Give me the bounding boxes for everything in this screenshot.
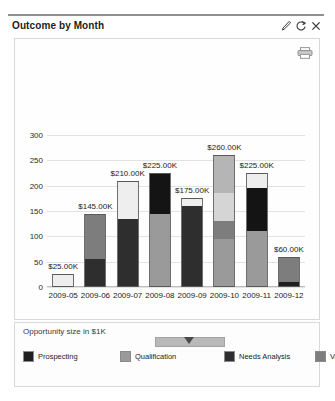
bar-segment[interactable] (246, 173, 268, 188)
print-icon[interactable] (297, 45, 313, 57)
x-axis-tick-label: 2009-05 (48, 291, 77, 300)
legend-caption: Opportunity size in $1K (23, 327, 106, 336)
x-axis-tick-label: 2009-10 (210, 291, 239, 300)
y-axis-tick-label: 0 (39, 283, 43, 292)
x-axis-tick-label: 2009-07 (113, 291, 142, 300)
bar-value-label: $25.00K (48, 262, 78, 271)
bar-segment[interactable] (213, 193, 235, 221)
y-axis-tick-label: 50 (34, 257, 43, 266)
legend-items: ProspectingQualificationNeeds AnalysisVa… (23, 349, 315, 363)
legend-item-label: Qualification (135, 352, 176, 361)
bar-segment[interactable] (149, 214, 171, 287)
bar-segment[interactable] (278, 257, 300, 282)
bar-segment[interactable] (181, 206, 203, 287)
bar-column[interactable] (246, 173, 268, 287)
bar-segment[interactable] (117, 181, 139, 219)
y-axis-tick-label: 100 (30, 232, 43, 241)
legend-item-label: Needs Analysis (239, 352, 290, 361)
chart-canvas: 050100150200250300$25.00K2009-05$145.00K… (14, 38, 320, 320)
bar-segment[interactable] (181, 198, 203, 206)
bar-segment[interactable] (52, 274, 74, 287)
legend-swatch-icon (120, 351, 131, 362)
legend-swatch-icon (224, 351, 235, 362)
bar-value-label: $225.00K (239, 161, 273, 170)
bar-column[interactable] (84, 214, 106, 287)
bar-value-label: $210.00K (110, 169, 144, 178)
bar-column[interactable] (278, 257, 300, 287)
bar-segment[interactable] (246, 188, 268, 231)
x-axis-tick-label: 2009-11 (242, 291, 271, 300)
bar-segment[interactable] (278, 282, 300, 287)
legend-item[interactable]: Qualification (120, 349, 224, 363)
bar-segment[interactable] (84, 214, 106, 260)
grid-line (47, 287, 305, 288)
bar-segment[interactable] (117, 219, 139, 287)
y-axis-tick-label: 150 (30, 207, 43, 216)
y-axis-tick-label: 300 (30, 131, 43, 140)
x-axis-tick-label: 2009-09 (177, 291, 206, 300)
bar-segment[interactable] (149, 173, 171, 214)
legend-item-label: Prospecting (38, 352, 78, 361)
legend-item[interactable]: Prospecting (23, 349, 120, 363)
x-axis-tick-label: 2009-06 (81, 291, 110, 300)
page-title: Outcome by Month (12, 20, 104, 31)
legend-item[interactable]: Value Proposition (315, 349, 335, 363)
slider-thumb-icon[interactable] (184, 337, 194, 344)
legend-scroll-slider[interactable] (155, 337, 225, 347)
y-axis-tick-label: 250 (30, 156, 43, 165)
edit-pencil-icon[interactable] (280, 20, 292, 32)
plot-area: 050100150200250300$25.00K2009-05$145.00K… (47, 135, 305, 287)
legend-item-label: Value Proposition (330, 352, 335, 361)
panel-title-bar: Outcome by Month (8, 14, 324, 38)
bar-column[interactable] (149, 173, 171, 287)
x-axis-tick-label: 2009-08 (145, 291, 174, 300)
grid-line (47, 135, 305, 136)
bar-column[interactable] (181, 198, 203, 287)
bar-segment[interactable] (213, 221, 235, 239)
bar-segment[interactable] (246, 231, 268, 287)
bar-value-label: $175.00K (175, 186, 209, 195)
bar-segment[interactable] (84, 259, 106, 287)
refresh-icon[interactable] (295, 20, 307, 32)
bar-value-label: $225.00K (143, 161, 177, 170)
dashboard-panel: Outcome by Month (8, 14, 324, 387)
bar-segment[interactable] (213, 239, 235, 287)
bar-column[interactable] (117, 181, 139, 287)
close-icon[interactable] (310, 20, 322, 32)
bar-value-label: $260.00K (207, 143, 241, 152)
bar-value-label: $60.00K (274, 245, 304, 254)
bar-segment[interactable] (213, 155, 235, 193)
bar-value-label: $145.00K (78, 202, 112, 211)
legend-swatch-icon (315, 351, 326, 362)
y-axis-tick-label: 200 (30, 181, 43, 190)
bar-column[interactable] (213, 155, 235, 287)
legend-swatch-icon (23, 351, 34, 362)
bar-column[interactable] (52, 274, 74, 287)
x-axis-tick-label: 2009-12 (274, 291, 303, 300)
legend-item[interactable]: Needs Analysis (224, 349, 315, 363)
legend-panel: Opportunity size in $1K ProspectingQuali… (14, 322, 320, 387)
panel-header-actions (280, 19, 322, 33)
